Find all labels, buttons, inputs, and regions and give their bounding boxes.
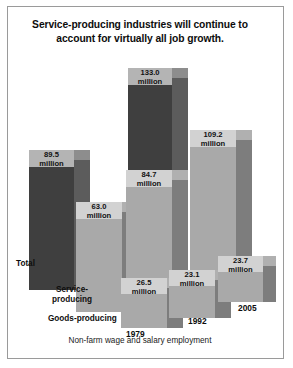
series-label-goods: Goods-producing [48, 314, 117, 323]
value-unit: million [201, 139, 225, 148]
value-unit: million [87, 211, 111, 220]
value-label-goods-1979: 26.5 million [121, 279, 167, 296]
chart-plot-area: 89.5 million 133.0 million 63.0 million … [0, 0, 293, 368]
value-unit: million [228, 265, 252, 274]
value-unit: million [39, 159, 63, 168]
bar-service-2005-top-bevel [236, 130, 252, 140]
value-label-total-1979: 89.5 million [29, 151, 74, 168]
bar-total-1992-top-bevel [172, 68, 188, 78]
bar-service-1992-top-bevel [172, 170, 188, 180]
value-unit: million [137, 179, 161, 188]
axis-label-2005: 2005 [238, 303, 257, 313]
series-label-service-line1: Service- [56, 285, 88, 294]
bar-total-1979 [29, 150, 74, 290]
bar-front-face [121, 294, 167, 328]
bar-total-1979-top-bevel [74, 150, 90, 160]
bar-front-face [218, 272, 263, 302]
bar-goods-2005-top-bevel [263, 256, 276, 266]
bar-front-face [29, 167, 74, 290]
bar-goods-2005-side [263, 266, 276, 302]
value-label-total-1992: 133.0 million [128, 69, 172, 86]
value-label-service-2005: 109.2 million [190, 131, 236, 148]
value-unit: million [132, 287, 156, 296]
axis-label-1992: 1992 [188, 316, 207, 326]
series-label-total: Total [16, 259, 35, 268]
bar-front-face [169, 286, 215, 318]
value-label-goods-2005: 23.7 million [218, 257, 263, 274]
chart-footnote: Non-farm wage and salary employment [14, 336, 266, 345]
series-label-service-line2: producing [52, 295, 92, 304]
series-label-service: Service- producing [52, 285, 92, 304]
value-unit: million [180, 279, 204, 288]
value-label-service-1992: 84.7 million [126, 171, 172, 188]
value-label-service-1979: 63.0 million [76, 203, 122, 220]
value-unit: million [138, 77, 162, 86]
value-label-goods-1992: 23.1 million [169, 271, 215, 288]
